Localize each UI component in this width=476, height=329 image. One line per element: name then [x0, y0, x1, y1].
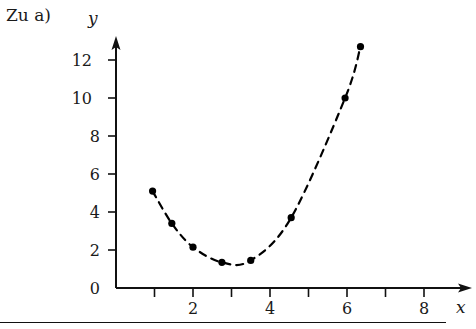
- y-tick-label-2: 2: [74, 243, 100, 259]
- x-tick-label-4: 4: [257, 301, 283, 317]
- data-point: [288, 214, 295, 221]
- y-tick-label-0: 0: [74, 281, 100, 297]
- y-tick-label-6: 6: [74, 167, 100, 183]
- page-divider-rule: [0, 322, 446, 323]
- data-point: [218, 259, 225, 266]
- chart-plot-area: [0, 0, 476, 329]
- data-point: [341, 94, 348, 101]
- x-axis-ticks: [155, 288, 425, 297]
- x-tick-label-6: 6: [334, 301, 360, 317]
- x-tick-label-8: 8: [411, 301, 437, 317]
- x-tick-label-2: 2: [180, 301, 206, 317]
- y-tick-label-10: 10: [66, 91, 92, 107]
- figure-container: Zu a) y x 0 2: [0, 0, 476, 329]
- y-tick-label-4: 4: [74, 205, 100, 221]
- data-series-curve: [153, 47, 361, 265]
- y-tick-label-12: 12: [66, 53, 92, 69]
- data-point: [149, 188, 156, 195]
- data-point: [247, 257, 254, 264]
- data-point: [168, 220, 175, 227]
- data-point: [357, 43, 364, 50]
- y-axis-ticks: [108, 60, 116, 250]
- data-point-markers: [149, 43, 364, 266]
- axis-lines: [112, 36, 473, 293]
- data-point: [189, 244, 196, 251]
- y-tick-label-8: 8: [74, 129, 100, 145]
